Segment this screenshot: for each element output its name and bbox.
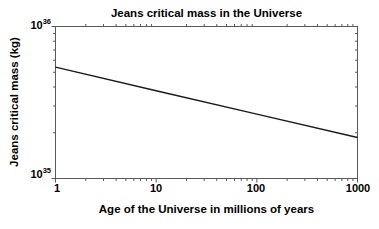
jeans-mass-chart: Jeans critical mass in the Universe Jean… <box>0 0 379 229</box>
plot-area <box>0 0 379 229</box>
data-line-jeans-mass <box>56 67 358 137</box>
